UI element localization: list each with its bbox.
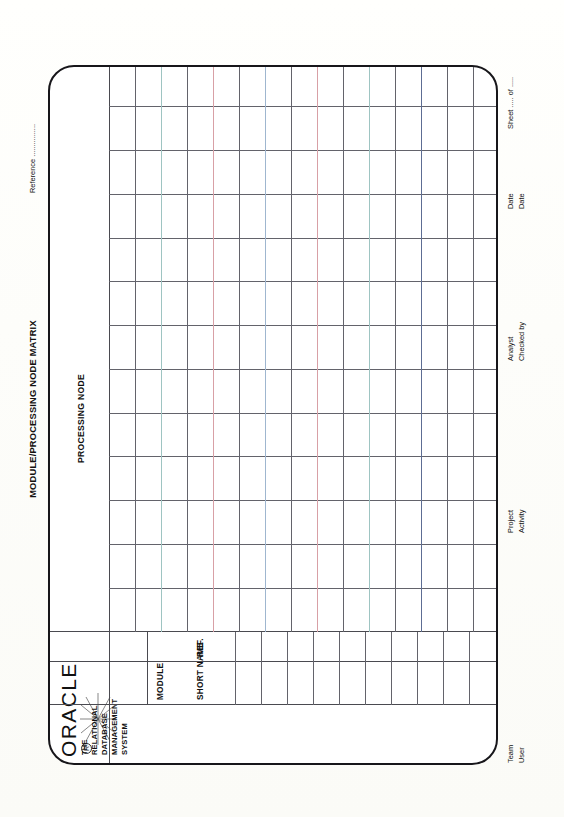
- grid-column-line: [109, 150, 496, 151]
- footer-label-checked-by: Checked by: [517, 321, 528, 360]
- header-ref: REF.: [196, 638, 205, 657]
- form-sheet: MODULE/PROCESSING NODE MATRIX Reference …: [22, 29, 542, 789]
- divider-module-header: [147, 632, 148, 705]
- grid-column-line: [109, 369, 496, 370]
- grid-row-line: [313, 632, 314, 705]
- brand-cell: ORACLER THE RELATIONAL DATABASE MANAGEME…: [50, 705, 496, 763]
- grid-row-line: [339, 632, 340, 705]
- grid-column-line: [109, 500, 496, 501]
- grid-row-line: [421, 67, 422, 632]
- grid-row-line: [447, 67, 448, 632]
- grid-row-line: [261, 632, 262, 705]
- footer-label-team: Team: [506, 744, 517, 762]
- grid-row-line: [417, 632, 418, 705]
- grid-row-line: [213, 67, 214, 632]
- grid-column-line: [109, 588, 496, 589]
- footer-group-sheet: Sheet ..... of .....: [506, 76, 517, 128]
- grid-row-line: [443, 632, 444, 705]
- brand-tagline: THE RELATIONAL DATABASE MANAGEMENT SYSTE…: [80, 698, 130, 754]
- matrix-grid: [109, 67, 496, 632]
- grid-column-line: [109, 544, 496, 545]
- footer-label-date-2: Date: [517, 193, 528, 209]
- grid-column-line: [109, 106, 496, 107]
- footer-label-user: User: [517, 744, 528, 762]
- grid-row-line: [239, 67, 240, 632]
- grid-column-line: [109, 413, 496, 414]
- brand-tagline-line-1: THE RELATIONAL DATABASE: [80, 698, 110, 754]
- footer-label-date-1: Date: [506, 193, 517, 209]
- grid-row-line: [473, 67, 474, 632]
- footer-group-project: Project Activity: [506, 509, 527, 532]
- left-block-row-lines: [233, 632, 496, 705]
- grid-column-line: [109, 325, 496, 326]
- grid-row-line: [135, 67, 136, 632]
- grid-row-line: [369, 67, 370, 632]
- reference-label: Reference ................: [28, 123, 37, 192]
- grid-row-line: [161, 67, 162, 632]
- grid-row-line: [291, 67, 292, 632]
- grid-row-line: [391, 632, 392, 705]
- grid-column-line: [109, 456, 496, 457]
- grid-column-line: [109, 194, 496, 195]
- grid-row-line: [343, 67, 344, 632]
- grid-row-line: [287, 632, 288, 705]
- footer-fields: Team User Project Activity Analyst Check…: [504, 65, 538, 765]
- footer-group-team: Team User: [506, 744, 527, 762]
- footer-group-analyst: Analyst Checked by: [506, 321, 527, 360]
- matrix-frame: ORACLER THE RELATIONAL DATABASE MANAGEME…: [48, 65, 498, 765]
- grid-row-line: [469, 632, 470, 705]
- grid-column-line: [109, 281, 496, 282]
- footer-group-date: Date Date: [506, 193, 527, 209]
- brand-name: ORACLE: [57, 662, 80, 757]
- grid-row-line: [395, 67, 396, 632]
- grid-column-line: [109, 238, 496, 239]
- grid-row-line: [365, 632, 366, 705]
- grid-row-line: [265, 67, 266, 632]
- footer-label-activity: Activity: [517, 509, 528, 532]
- footer-label-project: Project: [506, 509, 517, 532]
- footer-label-analyst: Analyst: [506, 321, 517, 360]
- grid-row-line: [235, 632, 236, 705]
- grid-row-line: [187, 67, 188, 632]
- sheet-label: Sheet ..... of .....: [506, 76, 517, 128]
- header-module: MODULE: [156, 664, 165, 700]
- grid-row-line: [317, 67, 318, 632]
- header-processing-node: PROCESSING NODE: [76, 373, 86, 462]
- brand-tagline-line-2: MANAGEMENT SYSTEM: [110, 698, 130, 754]
